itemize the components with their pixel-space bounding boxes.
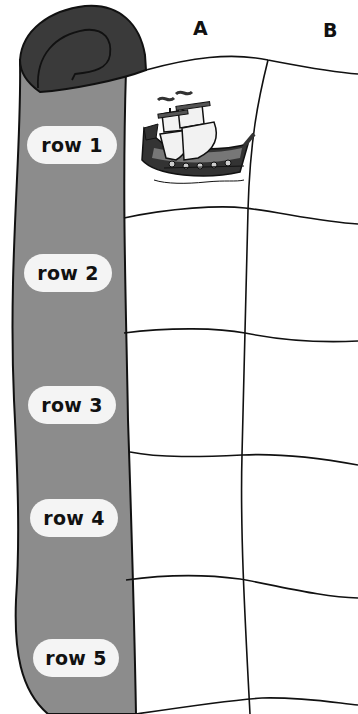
row-label-5: row 5 [33,639,119,677]
cell-b-row-4[interactable] [246,462,358,578]
cell-a-row-3[interactable] [130,338,242,450]
column-header-b: B [323,19,337,41]
cell-b-row-2[interactable] [250,222,358,330]
row-label-4: row 4 [30,499,118,537]
row-label-1: row 1 [27,126,117,164]
cell-a-row-5[interactable] [134,584,242,702]
treasure-map-board: A B row 1 row 2 row 3 row 4 row 5 [0,0,358,714]
cell-b-row-5[interactable] [248,588,358,700]
row-label-2: row 2 [24,254,112,292]
cell-a-row-4[interactable] [130,460,240,576]
column-header-a: A [193,17,208,39]
row-label-3: row 3 [28,386,116,424]
cell-b-row-1[interactable] [250,72,358,214]
cell-a-row-1[interactable] [128,72,244,214]
cell-b-row-3[interactable] [248,342,358,452]
cell-a-row-2[interactable] [128,222,244,330]
